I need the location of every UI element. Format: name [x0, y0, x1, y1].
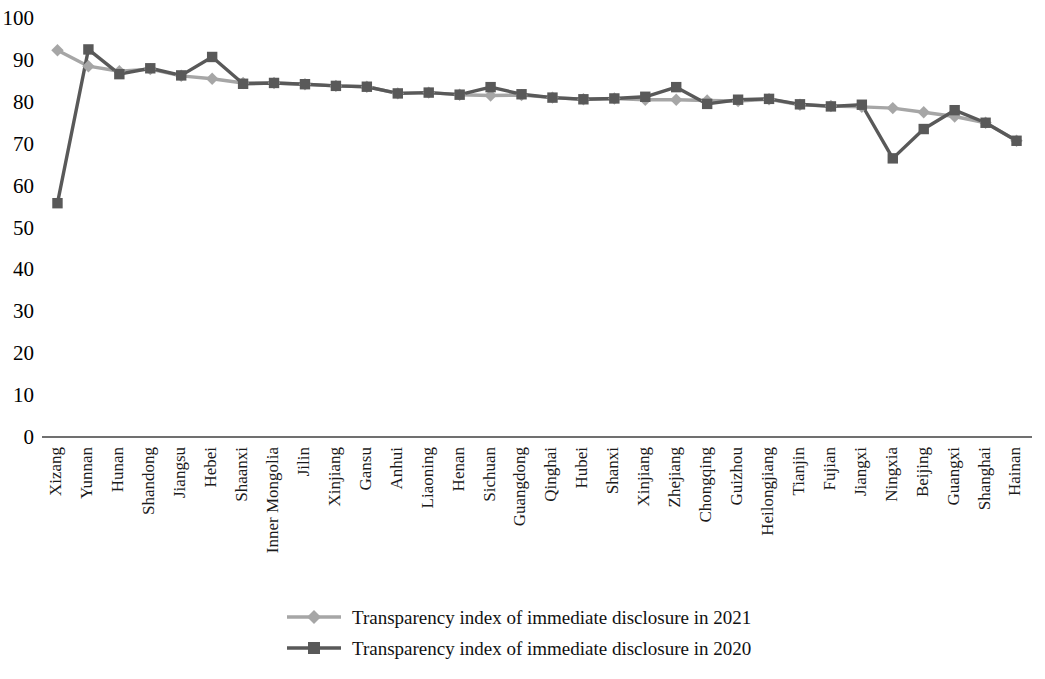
data-point-marker	[795, 99, 805, 109]
data-point-marker	[145, 63, 155, 73]
x-tick-label: Hubei	[572, 447, 591, 489]
y-tick-label: 60	[13, 174, 34, 198]
data-point-marker	[888, 153, 898, 163]
x-tick-label: Guangxi	[944, 447, 963, 506]
data-point-marker	[919, 124, 929, 134]
data-point-marker	[949, 105, 959, 115]
x-tick-label: Xinjiang	[325, 447, 344, 507]
data-point-marker	[207, 52, 217, 62]
x-tick-label: Anhui	[387, 447, 406, 490]
x-tick-label: Gansu	[356, 447, 375, 491]
x-tick-label: Shandong	[139, 447, 158, 516]
data-point-marker	[764, 94, 774, 104]
data-point-marker	[857, 100, 867, 110]
data-point-marker	[51, 44, 63, 56]
x-tick-label: Ningxia	[882, 447, 901, 502]
data-point-marker	[238, 79, 248, 89]
data-point-marker	[670, 94, 682, 106]
x-tick-label: Shaanxi	[232, 447, 251, 502]
y-tick-label: 30	[13, 299, 34, 323]
y-tick-label: 40	[13, 257, 34, 281]
data-point-marker	[176, 70, 186, 80]
data-point-marker	[300, 79, 310, 89]
y-axis-tick-labels: 0102030405060708090100	[3, 6, 35, 449]
x-tick-label: Henan	[449, 447, 468, 492]
chart-legend: Transparency index of immediate disclosu…	[287, 607, 751, 659]
x-tick-label: Guangdong	[510, 447, 529, 527]
data-point-marker	[578, 94, 588, 104]
y-tick-label: 100	[3, 6, 35, 30]
data-point-marker	[516, 89, 526, 99]
data-point-marker	[609, 93, 619, 103]
x-tick-label: Qinghai	[541, 447, 560, 502]
data-point-marker	[269, 78, 279, 88]
series-markers	[51, 44, 1022, 208]
data-point-marker	[671, 82, 681, 92]
legend-label: Transparency index of immediate disclosu…	[352, 607, 751, 628]
x-tick-label: Shanxi	[603, 447, 622, 495]
y-tick-label: 70	[13, 132, 34, 156]
y-tick-label: 50	[13, 216, 34, 240]
x-tick-label: Yunnan	[77, 447, 96, 499]
legend-marker-diamond	[307, 610, 321, 624]
data-point-marker	[362, 82, 372, 92]
chart-container: 0102030405060708090100 XizangYunnanHunan…	[0, 0, 1045, 679]
x-tick-label: Fujian	[820, 447, 839, 491]
y-tick-label: 80	[13, 90, 34, 114]
data-point-marker	[83, 44, 93, 54]
data-point-marker	[547, 92, 557, 102]
x-tick-label: Inner Mongolia	[263, 447, 282, 554]
data-point-marker	[454, 89, 464, 99]
x-tick-label: Tianjin	[789, 447, 808, 496]
x-tick-label: Jiangsu	[170, 447, 189, 499]
data-point-marker	[887, 102, 899, 114]
x-tick-label: Shanghai	[975, 447, 994, 511]
data-point-marker	[640, 92, 650, 102]
x-tick-label: Hainan	[1005, 447, 1024, 497]
legend-marker-square	[308, 642, 320, 654]
x-tick-label: Xinjiang	[634, 447, 653, 507]
x-tick-label: Guizhou	[727, 447, 746, 506]
data-point-marker	[918, 106, 930, 118]
x-tick-label: Hunan	[108, 447, 127, 493]
data-point-marker	[114, 69, 124, 79]
x-tick-label: Xizang	[46, 447, 65, 497]
series-line-2	[57, 49, 1016, 203]
x-tick-label: Chongqing	[696, 447, 715, 523]
x-tick-label: Jilin	[294, 447, 313, 477]
data-point-marker	[1011, 136, 1021, 146]
data-point-marker	[424, 87, 434, 97]
data-point-marker	[485, 82, 495, 92]
data-point-marker	[206, 73, 218, 85]
data-point-marker	[393, 88, 403, 98]
data-point-marker	[826, 101, 836, 111]
x-tick-label: Jiangxi	[851, 447, 870, 496]
y-tick-label: 90	[13, 48, 34, 72]
line-chart: 0102030405060708090100 XizangYunnanHunan…	[0, 0, 1045, 679]
data-point-marker	[980, 118, 990, 128]
y-tick-label: 10	[13, 383, 34, 407]
x-tick-label: Beijing	[913, 447, 932, 498]
x-tick-label: Sichuan	[480, 447, 499, 502]
series-lines	[57, 49, 1016, 203]
data-point-marker	[52, 198, 62, 208]
x-tick-label: Hebei	[201, 447, 220, 488]
y-tick-label: 0	[24, 425, 35, 449]
x-axis-tick-labels: XizangYunnanHunanShandongJiangsuHebeiSha…	[46, 447, 1024, 554]
x-tick-label: Liaoning	[418, 447, 437, 509]
data-point-marker	[702, 99, 712, 109]
data-point-marker	[733, 95, 743, 105]
x-tick-label: Zhejiang	[665, 447, 684, 508]
legend-label: Transparency index of immediate disclosu…	[352, 638, 751, 659]
x-tick-label: Heilongjiang	[758, 447, 777, 536]
y-tick-label: 20	[13, 341, 34, 365]
data-point-marker	[331, 81, 341, 91]
